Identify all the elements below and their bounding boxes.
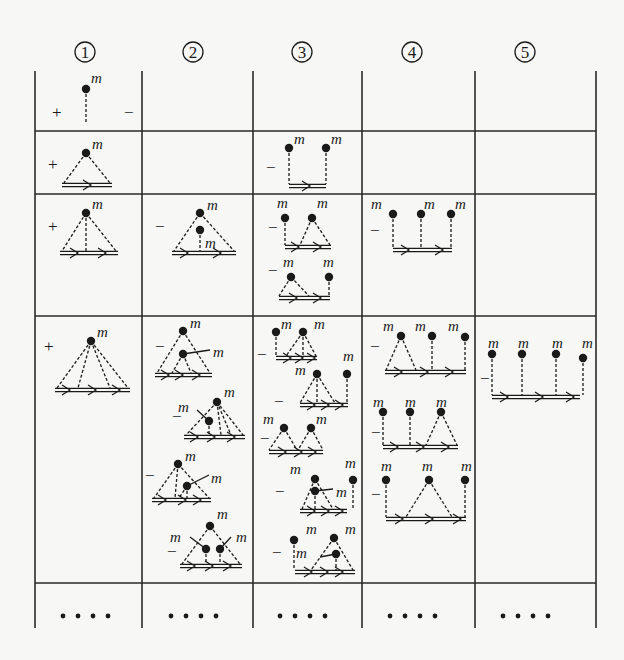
sign: − <box>272 543 282 562</box>
vertex-dot <box>183 482 191 490</box>
sign: − <box>257 345 267 364</box>
ellipsis-dot <box>433 614 438 619</box>
propagator-dashed <box>317 374 335 403</box>
vertex-dot <box>299 328 307 336</box>
cell-r4-c2: −mm <box>172 384 245 442</box>
arrow-icon <box>205 561 213 571</box>
cell-r3-c4: −mmm <box>370 196 466 255</box>
vertex-dot <box>179 350 187 358</box>
arrow-icon <box>441 442 449 452</box>
column-number: 3 <box>298 43 307 62</box>
vertex-dot <box>196 209 204 217</box>
arrow-icon <box>278 447 286 457</box>
sign: − <box>260 429 270 448</box>
sign: − <box>371 423 381 442</box>
arrow-icon <box>335 506 343 516</box>
mass-label: m <box>294 131 305 147</box>
mass-label: m <box>211 470 222 486</box>
vertex-dot <box>287 273 295 281</box>
vertex-dot <box>82 209 90 217</box>
mass-label: m <box>217 506 228 522</box>
vertex-dot <box>461 476 469 484</box>
arrow-icon <box>566 392 574 402</box>
arrow-icon <box>335 400 343 410</box>
vertex-dot <box>202 545 210 553</box>
vertex-dot <box>349 476 357 484</box>
mass-label: m <box>383 318 394 334</box>
cell-r4-c5: −mmmm <box>480 335 593 402</box>
arrow-icon <box>193 495 201 505</box>
ellipsis-dot <box>76 614 81 619</box>
vertex-dot <box>488 350 496 358</box>
mass-label: m <box>455 196 466 212</box>
vertex-dot <box>272 328 280 336</box>
mass-label: m <box>290 461 301 477</box>
arrow-icon <box>390 442 398 452</box>
vertex-dot <box>343 370 351 378</box>
ellipsis-dot <box>418 614 423 619</box>
arrow-icon <box>158 495 166 505</box>
mass-label: m <box>518 335 529 351</box>
cell-r3-c1: +m <box>48 196 118 258</box>
arrow-icon <box>401 245 409 255</box>
cell-r2-c3: −mm <box>266 131 342 191</box>
vertex-dot <box>579 354 587 362</box>
column-headers: 12345 <box>75 42 535 62</box>
sign: − <box>370 337 380 356</box>
cell-r4-c3: −mm <box>260 411 327 457</box>
mass-label: m <box>213 344 224 360</box>
ellipsis-dot <box>546 614 551 619</box>
propagator-dashed <box>429 480 452 517</box>
mass-label: m <box>97 324 108 340</box>
cell-r3-c3: −mm <box>268 254 334 303</box>
arrow-icon <box>161 370 169 380</box>
diagram-table: 12345 +−m+m−mm+m−mm−mm−mm−mmm+m−mm−mm−mm… <box>0 0 624 660</box>
arrow-icon <box>500 392 508 402</box>
sign: + <box>48 155 58 174</box>
column-header-1: 1 <box>75 42 95 62</box>
vertex-dot <box>82 149 90 157</box>
column-number: 1 <box>81 43 90 62</box>
mass-label: m <box>345 455 356 471</box>
column-header-4: 4 <box>402 42 422 62</box>
cell-r3-c3: −mm <box>268 195 331 252</box>
mass-label: m <box>92 196 103 212</box>
ellipsis-dot <box>388 614 393 619</box>
mass-label: m <box>343 348 354 364</box>
cell-r1-c1: +−m <box>52 70 134 124</box>
arrow-icon <box>320 567 328 577</box>
arrow-icon <box>223 561 231 571</box>
propagator-dashed <box>64 153 86 183</box>
cell-r4-c1: +m <box>44 324 130 395</box>
vertex-dot <box>330 534 338 542</box>
arrow-icon <box>83 180 91 190</box>
mass-label: m <box>323 254 334 270</box>
mass-label: m <box>224 384 235 400</box>
arrow-icon <box>394 367 402 377</box>
vertex-dot <box>552 350 560 358</box>
mass-label: m <box>190 315 201 331</box>
sign: − <box>268 218 278 237</box>
mass-label: m <box>178 399 189 415</box>
propagator-dashed <box>401 336 416 370</box>
arrow-icon <box>180 248 188 258</box>
vertex-dot <box>447 210 455 218</box>
sign: − <box>155 217 165 236</box>
arrow-icon <box>416 442 424 452</box>
mass-label: m <box>373 394 384 410</box>
vertex-dot <box>174 460 182 468</box>
cell-r3-c2: −mm <box>155 197 236 258</box>
ellipsis-dot <box>278 614 283 619</box>
column-number: 2 <box>189 43 198 62</box>
ellipsis-dot <box>91 614 96 619</box>
vertex-dot <box>290 536 298 544</box>
table-cells: +−m+m−mm+m−mm−mm−mm−mmm+m−mm−mm−mm−mmm−m… <box>44 70 593 577</box>
arrow-icon <box>192 370 200 380</box>
propagator-dashed <box>178 464 209 498</box>
mass-label: m <box>205 235 216 251</box>
arrow-icon <box>445 367 453 377</box>
arrow-icon <box>294 447 302 457</box>
propagator-dashed <box>57 341 91 388</box>
cell-r4-c2: −mm <box>155 315 224 380</box>
mass-label: m <box>283 254 294 270</box>
